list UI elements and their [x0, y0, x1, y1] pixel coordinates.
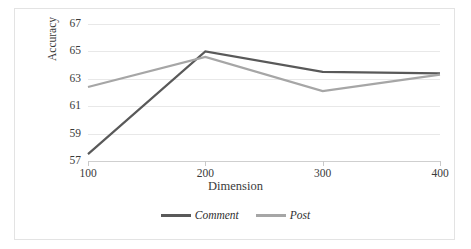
- line-series-comment: [88, 51, 440, 154]
- legend-label: Comment: [195, 210, 239, 222]
- legend-item-post[interactable]: Post: [256, 210, 310, 222]
- x-axis-tick-label: 300: [314, 168, 331, 180]
- y-axis-tick-label: 57: [70, 155, 82, 167]
- y-axis-tick-label: 67: [70, 18, 82, 30]
- y-axis-title: Accuracy: [46, 17, 58, 61]
- plot-area: 575961636567 100200300400: [88, 24, 440, 161]
- y-axis-tick-label: 61: [70, 100, 82, 112]
- chart-figure: Accuracy 575961636567 100200300400 Dimen…: [14, 8, 455, 240]
- x-axis-tick-mark: [323, 161, 324, 166]
- series-lines: [88, 24, 440, 161]
- y-axis-tick-label: 59: [70, 128, 82, 140]
- x-axis-tick-label: 100: [79, 168, 96, 180]
- y-axis-tick-label: 65: [70, 46, 82, 58]
- chart-legend: CommentPost: [15, 210, 456, 222]
- x-axis-tick-label: 200: [197, 168, 214, 180]
- legend-item-comment[interactable]: Comment: [161, 210, 239, 222]
- x-axis-line: [88, 161, 440, 162]
- x-axis-tick-label: 400: [431, 168, 448, 180]
- y-axis-tick-label: 63: [70, 73, 82, 85]
- legend-swatch-icon: [256, 214, 286, 217]
- legend-label: Post: [290, 210, 310, 222]
- x-axis-tick-mark: [205, 161, 206, 166]
- x-axis-tick-mark: [88, 161, 89, 166]
- legend-swatch-icon: [161, 214, 191, 217]
- x-axis-title: Dimension: [15, 179, 456, 194]
- x-axis-tick-mark: [440, 161, 441, 166]
